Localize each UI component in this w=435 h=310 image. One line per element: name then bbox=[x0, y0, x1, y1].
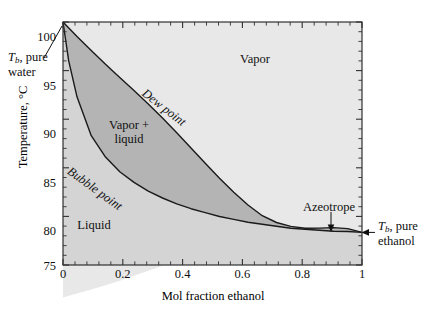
tb-symbol-water: T bbox=[8, 50, 15, 64]
y-tick-label-85: 85 bbox=[30, 176, 56, 190]
tb-pure-water-annotation: Tb, pure water bbox=[8, 50, 66, 79]
tb-pure-ethanol-line2: ethanol bbox=[378, 234, 418, 248]
tb-symbol-ethanol: T bbox=[378, 219, 385, 233]
tb-pure-water-suffix: , pure bbox=[19, 50, 47, 64]
y-axis-unit-text: °C bbox=[16, 86, 30, 99]
x-tick-label-0.8: 0.8 bbox=[287, 267, 317, 281]
x-tick-label-0.2: 0.2 bbox=[108, 267, 138, 281]
region-label-vapor-liquid: Vapor + liquid bbox=[92, 118, 166, 146]
x-tick-label-0: 0 bbox=[48, 267, 78, 281]
x-tick-label-1: 1 bbox=[347, 267, 377, 281]
y-axis-title-text: Temperature, bbox=[16, 99, 30, 168]
tb-pure-ethanol-line1: Tb, pure bbox=[378, 219, 418, 234]
region-label-vapor: Vapor bbox=[228, 52, 282, 66]
plot-canvas bbox=[0, 0, 435, 310]
y-tick-label-100: 100 bbox=[30, 30, 56, 44]
azeotrope-annotation: Azeotrope bbox=[303, 200, 355, 214]
tb-pure-water-line1: Tb, pure bbox=[8, 50, 66, 65]
y-tick-label-80: 80 bbox=[30, 224, 56, 238]
y-tick-label-90: 90 bbox=[30, 127, 56, 141]
tb-pure-ethanol-suffix: , pure bbox=[389, 219, 417, 233]
tb-ethanol-arrow bbox=[362, 229, 376, 236]
x-axis-title-text: Mol fraction ethanol bbox=[162, 289, 265, 303]
x-tick-label-0.6: 0.6 bbox=[227, 267, 257, 281]
tb-pure-ethanol-annotation: Tb, pure ethanol bbox=[378, 219, 418, 248]
region-label-liquid: Liquid bbox=[64, 218, 124, 232]
x-tick-label-0.4: 0.4 bbox=[168, 267, 198, 281]
region-label-vapor-liquid-line1: Vapor + bbox=[92, 118, 166, 132]
y-tick-label-95: 95 bbox=[30, 79, 56, 93]
y-axis-title: Temperature, °C bbox=[13, 72, 31, 182]
region-label-vapor-liquid-line2: liquid bbox=[92, 132, 166, 146]
tb-pure-water-line2: water bbox=[8, 65, 66, 79]
x-axis-title: Mol fraction ethanol bbox=[113, 286, 313, 304]
vle-phase-diagram-figure: 100 95 90 85 80 75 0 0.2 0.4 0.6 0.8 1 T… bbox=[0, 0, 435, 310]
